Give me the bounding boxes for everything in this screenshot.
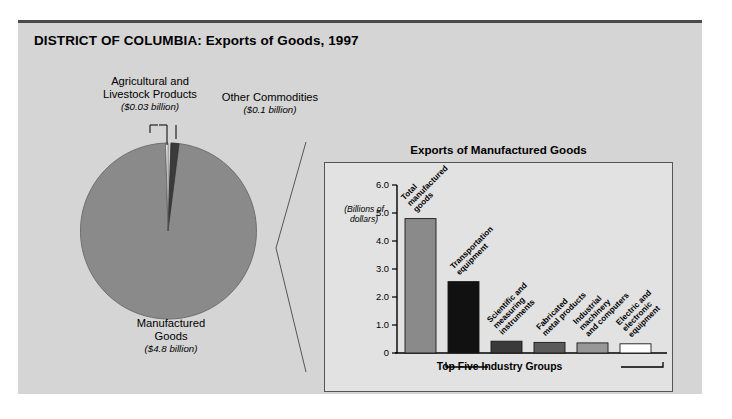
bar-chart-svg: 01.02.03.04.05.06.0 Totalmanufacturedgoo… bbox=[325, 163, 674, 393]
pie-callout-other-commodities: Other Commodities ($0.1 billion) bbox=[206, 91, 334, 116]
bar-5 bbox=[620, 344, 651, 353]
pie-callout-agricultural-value: ($0.03 billion) bbox=[80, 101, 220, 112]
pie-chart: Agricultural and Livestock Products ($0.… bbox=[18, 81, 318, 381]
pie-callout-agricultural-line1: Agricultural and bbox=[111, 75, 189, 87]
svg-text:4.0: 4.0 bbox=[376, 235, 389, 246]
bar-3 bbox=[534, 342, 565, 353]
svg-text:0: 0 bbox=[384, 347, 389, 358]
pie-callout-agricultural: Agricultural and Livestock Products ($0.… bbox=[80, 75, 220, 113]
pie-callout-other-line1: Other Commodities bbox=[222, 91, 318, 103]
pie-callout-manufactured-line2: Goods bbox=[155, 330, 188, 342]
bar-chart-panel: (Billions of dollars) 01.02.03.04.05.06.… bbox=[324, 162, 673, 392]
pie-callout-other-value: ($0.1 billion) bbox=[206, 104, 334, 115]
bar-1 bbox=[448, 282, 479, 353]
bar-2 bbox=[491, 341, 522, 353]
pie-leader-lines bbox=[150, 125, 176, 145]
bar-4 bbox=[577, 343, 608, 353]
figure-panel: DISTRICT OF COLUMBIA: Exports of Goods, … bbox=[18, 20, 702, 394]
bar-category-labels: TotalmanufacturedgoodsTransportationequi… bbox=[399, 163, 665, 339]
svg-text:2.0: 2.0 bbox=[376, 291, 389, 302]
pie-callout-agricultural-line2: Livestock Products bbox=[103, 88, 197, 100]
bar-panel-title: Exports of Manufactured Goods bbox=[324, 143, 673, 156]
bar-label-1: Transportationequipment bbox=[448, 224, 501, 277]
pie-callout-manufactured-line1: Manufactured bbox=[137, 317, 205, 329]
svg-text:1.0: 1.0 bbox=[376, 319, 389, 330]
pie-callout-manufactured-value: ($4.8 billion) bbox=[96, 343, 246, 354]
page-title: DISTRICT OF COLUMBIA: Exports of Goods, … bbox=[34, 33, 359, 48]
svg-text:5.0: 5.0 bbox=[376, 207, 389, 218]
bracket-label: Top Five Industry Groups bbox=[325, 361, 674, 372]
bar-label-2: Scientific andmeasuringinstruments bbox=[485, 281, 541, 337]
bar-series bbox=[405, 219, 651, 353]
svg-text:6.0: 6.0 bbox=[376, 179, 389, 190]
pie-callout-manufactured: Manufactured Goods ($4.8 billion) bbox=[96, 317, 246, 355]
y-axis-ticks: 01.02.03.04.05.06.0 bbox=[376, 179, 397, 358]
bar-label-0: Totalmanufacturedgoods bbox=[399, 163, 455, 214]
svg-text:3.0: 3.0 bbox=[376, 263, 389, 274]
pie-slice-manufactured bbox=[80, 143, 256, 319]
bar-0 bbox=[405, 219, 436, 353]
